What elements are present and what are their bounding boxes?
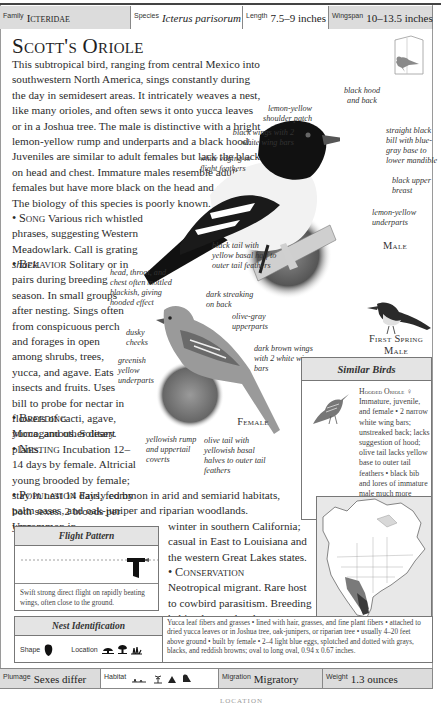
length-label: Length — [246, 12, 267, 19]
annot-greenish-underparts: greenish yellow underparts — [118, 356, 150, 386]
behavior-heading: Behavior — [19, 257, 66, 271]
conservation-heading: Conservation — [175, 565, 244, 579]
annot-bill: straight black bill with blue-gray base … — [386, 126, 438, 166]
population-continued: winter in southern California; casual in… — [168, 519, 316, 565]
top-rule — [0, 3, 441, 5]
bullet: • — [12, 257, 16, 271]
family-cell: Family Icteridae — [0, 6, 131, 29]
flight-pattern-text: Swift strong direct flight on rapidly be… — [15, 584, 158, 608]
nest-shape-location-row: Shape Location — [15, 636, 162, 663]
wingspan-cell: Wingspan 10–13.5 inches — [329, 6, 433, 29]
annot-dark-streaking: dark streaking on back — [206, 290, 256, 310]
species-cell: Species Icterus parisorum — [131, 6, 243, 29]
length-cell: Length 7.5–9 inches — [243, 6, 329, 29]
breeding-heading: Breeding — [19, 411, 67, 425]
annot-tail: black tail with yellow basal half to out… — [212, 241, 282, 271]
nest-identification-box: Nest Identification Shape Location Yucca… — [14, 616, 433, 663]
label-male: Male — [370, 240, 420, 251]
left-edge — [0, 5, 1, 688]
bottom-info-bar: Plumage Sexes differ Habitat Migration M… — [0, 668, 433, 689]
palm-icon — [154, 674, 162, 684]
annot-wing-bars: black wings with 2 white wing bars — [232, 128, 294, 148]
similar-birds-heading: Similar Birds — [302, 358, 431, 381]
nest-identification-left: Nest Identification Shape Location — [15, 617, 163, 662]
population-heading: Population — [19, 488, 76, 502]
annot-hooded-effect: head, throat, and chest often mottled bl… — [110, 268, 184, 308]
range-map — [316, 496, 432, 621]
label-female: Female — [228, 416, 278, 427]
wingspan-value: 10–13.5 inches — [366, 12, 433, 24]
woodland-icon — [182, 674, 192, 683]
bullet: • — [12, 211, 16, 225]
nest-shape-icon — [44, 644, 53, 656]
bullet: • — [12, 488, 16, 502]
song-heading: Song — [19, 211, 45, 225]
plumage-label: Plumage — [3, 673, 31, 680]
flying-bird-silhouette-icon — [127, 558, 145, 578]
flight-pattern-box: Flight Pattern Swift strong direct fligh… — [14, 526, 159, 611]
flight-pattern-diagram — [15, 546, 158, 584]
annot-black-hood: black hood and back — [340, 86, 384, 106]
migration-cell: Migration Migratory — [219, 669, 323, 688]
flight-pattern-heading: Flight Pattern — [15, 527, 158, 546]
location-tree-icon — [117, 644, 128, 655]
weight-cell: Weight 1.3 ounces — [323, 669, 433, 688]
species-value: Icterus parisorum — [162, 12, 241, 24]
bullet: • — [12, 411, 16, 425]
book-thumbnail-icon — [393, 34, 425, 74]
migration-value: Migratory — [254, 673, 299, 685]
annot-yellowish-rump: yellowish rump and uppertail coverts — [146, 435, 198, 465]
location-yucca-icon — [131, 645, 142, 655]
desert-scrub-icon — [132, 675, 146, 683]
plumage-value: Sexes differ — [34, 673, 87, 685]
migration-label: Migration — [222, 673, 251, 680]
nesting-heading: Nesting — [19, 442, 60, 456]
page-title: Scott's Oriole — [12, 34, 144, 59]
location-shrub-icon — [102, 645, 114, 655]
wingspan-label: Wingspan — [332, 12, 363, 19]
annot-dusky-cheeks: dusky cheeks — [126, 328, 150, 348]
annot-olive-tail: olive tail with yellowish basal halves t… — [204, 436, 276, 476]
footer-running-head: LOCATION — [220, 697, 263, 705]
breeding-section: • Breeding Monogamous. Solitary. — [12, 411, 130, 442]
species-label: Species — [134, 12, 159, 19]
habitat-cell: Habitat — [101, 669, 219, 688]
bullet: • — [168, 565, 172, 579]
annot-shoulder-patch: lemon-yellow shoulder patch — [258, 104, 312, 124]
mountain-icon — [168, 675, 176, 683]
location-label: Location — [71, 646, 97, 653]
annot-white-edging: white edging to flight feathers — [200, 154, 256, 174]
similar-bird-name: Hooded Oriole — [359, 387, 404, 396]
annot-upper-breast: black upper breast — [392, 176, 432, 196]
nest-identification-heading: Nest Identification — [15, 617, 162, 636]
weight-label: Weight — [326, 673, 348, 680]
annot-underparts: lemon-yellow underparts — [372, 208, 432, 228]
hooded-oriole-icon — [313, 392, 353, 426]
info-bar: Family Icteridae Species Icterus parisor… — [0, 6, 433, 29]
plumage-cell: Plumage Sexes differ — [0, 669, 101, 688]
female-symbol-icon: ♀ — [406, 387, 412, 396]
label-first-spring-male: First Spring Male — [358, 333, 434, 357]
annot-olive-gray: olive-gray upperparts — [232, 312, 282, 332]
shape-label: Shape — [20, 646, 40, 653]
first-spring-male-illustration — [365, 298, 435, 338]
nest-description: Yucca leaf fibers and grasses • lined wi… — [163, 617, 432, 662]
family-label: Family — [3, 12, 24, 19]
length-value: 7.5–9 inches — [270, 12, 326, 24]
breeding-text: Monogamous. Solitary. — [12, 427, 117, 439]
population-text-2: winter in southern California; casual in… — [168, 520, 307, 563]
weight-value: 1.3 ounces — [351, 673, 398, 685]
bullet: • — [12, 442, 16, 456]
family-value: Icteridae — [27, 12, 70, 24]
habitat-label: Habitat — [104, 673, 126, 680]
field-guide-page: Family Icteridae Species Icterus parisor… — [0, 0, 441, 706]
